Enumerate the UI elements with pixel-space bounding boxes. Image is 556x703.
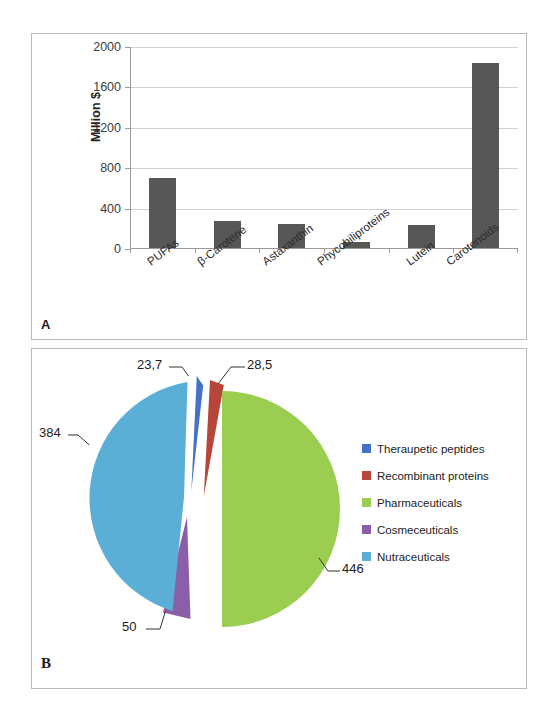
gridline-400 <box>130 209 518 210</box>
y-axis-label-400: 400 <box>100 202 121 216</box>
pie-legend: Theraupetic peptides Recombinant protein… <box>362 435 512 570</box>
leader-line-recombinant-proteins <box>218 367 245 384</box>
panel-b-label: B <box>41 655 51 672</box>
x-tick-2 <box>259 249 260 253</box>
y-axis-line <box>130 47 131 249</box>
legend-swatch-icon-pharmaceuticals <box>362 498 371 507</box>
panel-a-bar-chart: 2000 1600 1200 800 400 0 Million $ PUFAs <box>31 33 527 340</box>
legend-item-nutraceuticals: Nutraceuticals <box>362 543 512 570</box>
legend-label-pharmaceuticals: Pharmaceuticals <box>377 497 462 509</box>
pie-slice-pharmaceuticals <box>222 391 340 627</box>
gridline-1200 <box>130 128 518 129</box>
gridline-1600 <box>130 87 518 88</box>
bar-chart-plot-area: 2000 1600 1200 800 400 0 <box>130 47 518 249</box>
y-axis-label-800: 800 <box>100 161 121 175</box>
x-tick-6 <box>517 249 518 253</box>
legend-label-recombinant-proteins: Recombinant proteins <box>377 470 489 482</box>
panel-b-pie-chart: 23,7 28,5 446 50 384 Theraupetic peptide… <box>31 348 527 689</box>
y-axis-label-2000: 2000 <box>93 40 121 54</box>
y-tick-1200 <box>125 128 130 129</box>
pie-slice-theraupetic-peptides <box>191 376 203 491</box>
pie-value-nutraceuticals: 384 <box>39 425 61 440</box>
y-tick-1600 <box>125 87 130 88</box>
legend-swatch-icon-cosmeceuticals <box>362 525 371 534</box>
pie-value-recombinant-proteins: 28,5 <box>247 357 272 372</box>
legend-swatch-icon-recombinant-proteins <box>362 471 371 480</box>
x-tick-1 <box>195 249 196 253</box>
legend-label-nutraceuticals: Nutraceuticals <box>377 551 450 563</box>
legend-swatch-icon-theraupetic-peptides <box>362 444 371 453</box>
legend-label-cosmeceuticals: Cosmeceuticals <box>377 524 458 536</box>
leader-line-cosmeceuticals <box>146 611 166 629</box>
pie-chart-area: 23,7 28,5 446 50 384 Theraupetic peptide… <box>32 349 528 690</box>
legend-swatch-icon-nutraceuticals <box>362 552 371 561</box>
legend-item-recombinant-proteins: Recombinant proteins <box>362 462 512 489</box>
x-tick-0 <box>130 249 131 253</box>
figure-container: 2000 1600 1200 800 400 0 Million $ PUFAs <box>0 0 556 703</box>
leader-line-theraupetic-peptides <box>169 367 189 376</box>
gridline-2000 <box>130 47 518 48</box>
legend-item-cosmeceuticals: Cosmeceuticals <box>362 516 512 543</box>
pie-slice-recombinant-proteins <box>204 380 224 496</box>
y-tick-400 <box>125 209 130 210</box>
y-tick-2000 <box>125 47 130 48</box>
y-axis-title: Million $ <box>89 92 103 142</box>
leader-line-nutraceuticals <box>68 435 90 445</box>
y-axis-label-0: 0 <box>114 242 121 256</box>
legend-label-theraupetic-peptides: Theraupetic peptides <box>377 443 484 455</box>
panel-a-label: A <box>41 317 50 332</box>
legend-item-pharmaceuticals: Pharmaceuticals <box>362 489 512 516</box>
pie-value-cosmeceuticals: 50 <box>122 619 136 634</box>
x-tick-4 <box>389 249 390 253</box>
y-tick-800 <box>125 168 130 169</box>
bar-carotenoids <box>472 63 499 248</box>
pie-value-theraupetic-peptides: 23,7 <box>137 357 162 372</box>
legend-item-theraupetic-peptides: Theraupetic peptides <box>362 435 512 462</box>
pie-value-pharmaceuticals: 446 <box>342 561 364 576</box>
gridline-800 <box>130 168 518 169</box>
pie-slice-nutraceuticals <box>89 382 187 611</box>
